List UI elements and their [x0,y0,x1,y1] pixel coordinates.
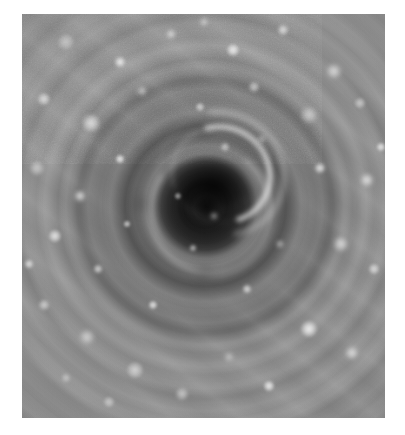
edge-vignette [22,14,385,418]
image-viewport [0,0,405,435]
polar-vortex-image [22,14,385,418]
